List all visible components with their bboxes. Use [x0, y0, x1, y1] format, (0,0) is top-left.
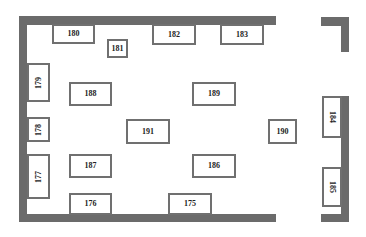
booth-188[interactable]: 188 [69, 82, 112, 106]
booth-182[interactable]: 182 [152, 24, 196, 45]
booth-label: 177 [35, 171, 43, 183]
booth-176[interactable]: 176 [69, 193, 112, 215]
booth-181[interactable]: 181 [107, 39, 128, 58]
wall-left [19, 16, 27, 222]
booth-label: 188 [85, 90, 97, 98]
booth-label: 175 [184, 200, 196, 208]
booth-179[interactable]: 179 [27, 63, 50, 102]
booth-190[interactable]: 190 [268, 119, 297, 144]
wall-right-lower-vertical [341, 96, 349, 222]
booth-183[interactable]: 183 [220, 24, 264, 45]
booth-186[interactable]: 186 [192, 154, 236, 178]
booth-label: 178 [35, 124, 43, 136]
booth-label: 191 [142, 128, 154, 136]
booth-185[interactable]: 185 [322, 167, 342, 207]
booth-label: 184 [328, 111, 336, 123]
booth-191[interactable]: 191 [126, 119, 170, 144]
booth-184[interactable]: 184 [322, 96, 342, 138]
booth-label: 189 [208, 90, 220, 98]
booth-label: 186 [208, 162, 220, 170]
booth-178[interactable]: 178 [27, 117, 50, 142]
booth-187[interactable]: 187 [69, 154, 112, 178]
booth-label: 176 [85, 200, 97, 208]
booth-label: 181 [112, 45, 124, 53]
booth-label: 183 [236, 31, 248, 39]
booth-label: 190 [277, 128, 289, 136]
booth-label: 187 [85, 162, 97, 170]
booth-label: 182 [168, 31, 180, 39]
wall-right-top-vertical [341, 17, 349, 52]
booth-175[interactable]: 175 [168, 193, 212, 215]
booth-180[interactable]: 180 [52, 24, 95, 44]
booth-label: 180 [68, 30, 80, 38]
booth-189[interactable]: 189 [192, 82, 236, 106]
booth-label: 185 [328, 181, 336, 193]
wall-right-lower-horizontal [321, 214, 349, 222]
floor-plan: 175 176 177 178 179 180 181 182 183 184 … [0, 0, 366, 237]
booth-label: 179 [35, 77, 43, 89]
wall-bottom [19, 214, 276, 222]
booth-177[interactable]: 177 [27, 154, 50, 199]
